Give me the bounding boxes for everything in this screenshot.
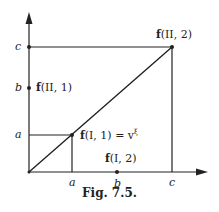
point-f-II-2 bbox=[170, 45, 174, 49]
y-tick-b: b bbox=[15, 82, 22, 93]
diagonal-line bbox=[29, 47, 172, 172]
y-tick-c: c bbox=[15, 41, 21, 52]
point-f-I-1 bbox=[70, 133, 74, 137]
point-f-II-1 bbox=[27, 86, 31, 90]
x-axis-arrow-icon bbox=[196, 169, 208, 176]
point-f-I-2 bbox=[115, 170, 119, 174]
y-tick-a: a bbox=[15, 129, 22, 140]
label-f-II-1: f(II, 1) bbox=[36, 82, 72, 93]
label-f-I-2: f(I, 2) bbox=[105, 153, 137, 164]
point-c-yaxis bbox=[27, 45, 31, 49]
label-f-I-1: f(I, 1) = vξ bbox=[80, 129, 138, 141]
figure-caption: Fig. 7.5. bbox=[0, 186, 219, 200]
point-origin bbox=[28, 171, 31, 174]
y-axis-arrow-icon bbox=[26, 12, 33, 24]
label-f-II-2: f(II, 2) bbox=[156, 29, 192, 40]
